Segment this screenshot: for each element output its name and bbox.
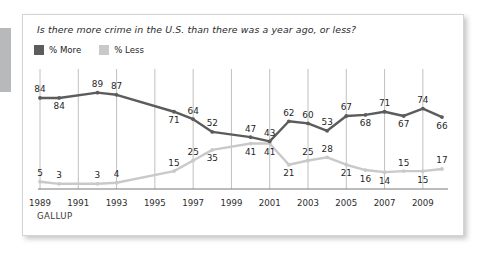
x-tick-label: 1997 (182, 198, 204, 208)
data-point-label: 5 (37, 168, 43, 178)
data-point-label: 35 (207, 153, 218, 163)
chart-legend: % More % Less (34, 45, 144, 55)
legend-swatch-less (99, 45, 109, 55)
data-point-label: 89 (92, 79, 104, 89)
data-point-label: 25 (187, 147, 198, 157)
x-tick-label: 1991 (67, 198, 89, 208)
data-point-label: 41 (264, 147, 275, 157)
data-point-label: 15 (417, 175, 428, 185)
data-point-label: 71 (168, 115, 179, 125)
data-point-label: 71 (379, 98, 390, 108)
left-edge-decoration (0, 28, 11, 92)
data-point-label: 62 (283, 108, 294, 118)
data-point-label: 43 (264, 128, 275, 138)
data-point-label: 3 (95, 170, 101, 180)
x-tick-label: 2001 (259, 198, 281, 208)
x-tick-label: 2005 (335, 198, 357, 208)
legend-entry-more: % More (34, 45, 81, 55)
x-tick-label: 2009 (412, 198, 434, 208)
data-point-label: 21 (283, 168, 294, 178)
x-tick-label: 1993 (106, 198, 128, 208)
data-point-label: 84 (34, 84, 46, 94)
data-point-label: 41 (245, 147, 256, 157)
data-point-label: 60 (302, 110, 314, 120)
data-point-label: 17 (436, 155, 447, 165)
data-point-label: 53 (321, 117, 332, 127)
data-labels-less: 53341525354141212528211614151517 (37, 144, 447, 186)
data-point-label: 84 (53, 101, 65, 111)
data-point-label: 15 (398, 158, 409, 168)
data-point-label: 25 (302, 147, 313, 157)
line-chart-svg: 53341525354141212528211614151517 8484898… (38, 73, 448, 195)
x-tick-label: 1999 (220, 198, 242, 208)
data-point-label: 68 (360, 118, 372, 128)
x-tick-label: 1995 (144, 198, 166, 208)
data-point-label: 67 (398, 119, 409, 129)
x-tick-label: 2007 (374, 198, 396, 208)
data-point-label: 74 (417, 95, 429, 105)
data-point-label: 64 (187, 106, 199, 116)
data-point-label: 16 (360, 174, 372, 184)
data-point-label: 3 (56, 170, 62, 180)
legend-swatch-more (34, 45, 44, 55)
x-tick-label: 1989 (29, 198, 51, 208)
data-labels-more: 848489877164524743626053676871677466 (34, 79, 448, 138)
x-axis-labels: 1989199119931995199719992001200320052007… (38, 198, 448, 212)
legend-entry-less: % Less (99, 45, 144, 55)
page-title: Is there more crime in the U.S. than the… (37, 24, 356, 35)
data-point-label: 28 (321, 144, 333, 154)
plot-area: 53341525354141212528211614151517 8484898… (38, 73, 448, 195)
legend-label-less: % Less (114, 45, 144, 55)
data-point-label: 87 (111, 81, 122, 91)
data-point-label: 15 (168, 158, 179, 168)
x-tick-label: 2003 (297, 198, 319, 208)
data-point-label: 52 (207, 118, 218, 128)
data-point-label: 66 (436, 121, 448, 131)
data-point-label: 4 (114, 169, 120, 179)
data-point-label: 67 (341, 102, 352, 112)
chart-card: Is there more crime in the U.S. than the… (22, 14, 464, 236)
data-point-label: 14 (379, 176, 391, 186)
data-point-label: 47 (245, 124, 256, 134)
data-point-label: 21 (341, 168, 352, 178)
source-label: GALLUP (37, 211, 73, 221)
legend-label-more: % More (49, 45, 81, 55)
